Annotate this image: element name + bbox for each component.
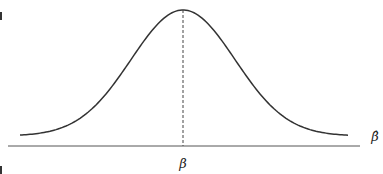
- center-label-beta: β: [178, 156, 187, 171]
- x-axis-label-beta-hat: β̂: [370, 129, 379, 144]
- edge-mark-bottom: [0, 166, 2, 174]
- normal-density-curve: [20, 10, 348, 135]
- bell-curve-diagram: β β̂: [0, 0, 383, 174]
- edge-mark-top: [0, 12, 2, 20]
